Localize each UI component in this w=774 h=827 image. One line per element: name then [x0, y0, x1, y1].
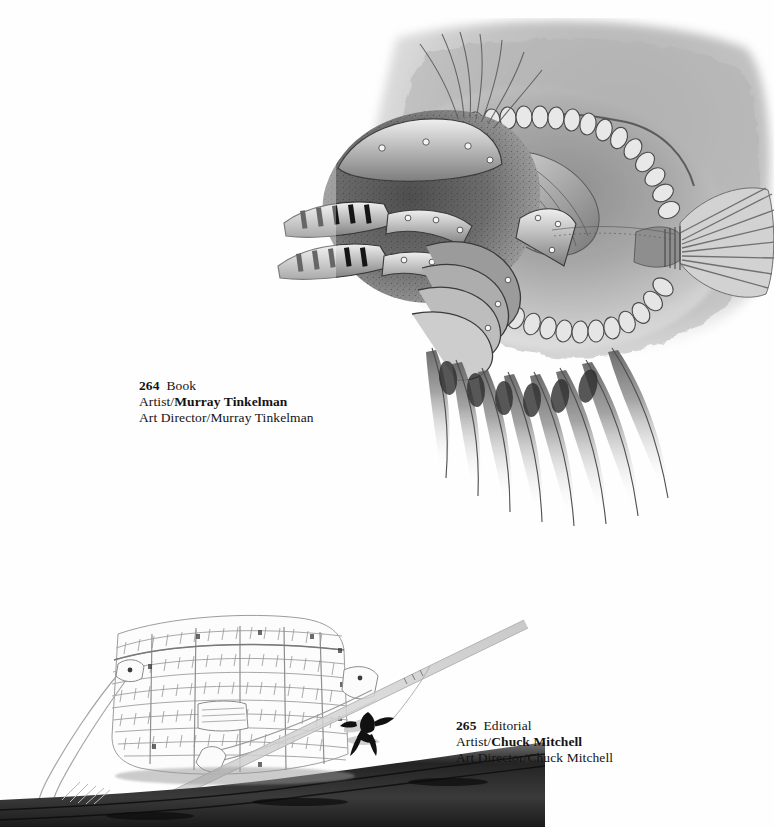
caption-265-art-director-line: Art Director/Chuck Mitchell — [456, 750, 613, 766]
caption-plate-265: 265 Editorial Artist/Chuck Mitchell Art … — [456, 718, 613, 765]
artist-label-265: Artist/ — [456, 734, 491, 749]
artwork-fishing-creel — [0, 604, 545, 827]
art-director-label-264: Art Director/ — [139, 410, 210, 425]
plate-number-265: 265 — [456, 718, 477, 733]
artist-name-265: Chuck Mitchell — [491, 734, 582, 749]
caption-265-title-line: 265 Editorial — [456, 718, 613, 734]
caption-plate-264: 264 Book Artist/Murray Tinkelman Art Dir… — [139, 378, 314, 425]
caption-264-art-director-line: Art Director/Murray Tinkelman — [139, 410, 314, 426]
artist-name-264: Murray Tinkelman — [174, 394, 287, 409]
artwork-armored-fish — [276, 18, 774, 578]
caption-264-title-line: 264 Book — [139, 378, 314, 394]
page-canvas: 264 Book Artist/Murray Tinkelman Art Dir… — [0, 0, 774, 827]
caption-265-artist-line: Artist/Chuck Mitchell — [456, 734, 613, 750]
caption-264-artist-line: Artist/Murray Tinkelman — [139, 394, 314, 410]
plate-category-265: Editorial — [484, 718, 532, 733]
art-director-name-264: Murray Tinkelman — [210, 410, 313, 425]
plate-number-264: 264 — [139, 378, 160, 393]
artist-label-264: Artist/ — [139, 394, 174, 409]
art-director-label-265: Art Director/ — [456, 750, 527, 765]
plate-category-264: Book — [167, 378, 197, 393]
art-director-name-265: Chuck Mitchell — [527, 750, 613, 765]
